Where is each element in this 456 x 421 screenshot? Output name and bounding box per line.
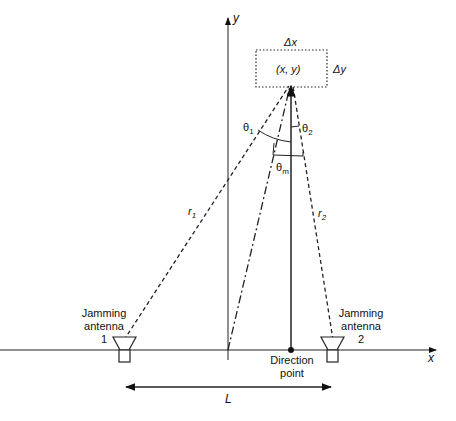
antenna1-label: Jamming antenna 1 (70, 307, 138, 346)
thetam-arc (273, 143, 303, 156)
theta1-arc (258, 130, 291, 142)
thetam-label: θm (276, 161, 289, 178)
delta-x-label: Δx (284, 36, 297, 49)
antenna2-label: Jamming antenna 2 (330, 307, 392, 346)
r1-label: r1 (188, 205, 196, 222)
theta2-label: θ2 (302, 122, 313, 139)
baseline-L-label: L (225, 393, 232, 406)
r2-label: r2 (318, 207, 326, 224)
r2-line (293, 86, 333, 340)
theta2-arc (291, 126, 299, 127)
target-position-label: (x, y) (276, 63, 300, 76)
y-axis-label: y (233, 12, 239, 25)
diagram-canvas (0, 0, 456, 421)
x-axis-label: x (428, 352, 434, 365)
direction-point-dot (288, 347, 294, 353)
theta1-label: θ1 (243, 121, 254, 138)
delta-y-label: Δy (333, 63, 346, 76)
direction-point-label: Direction point (262, 354, 322, 380)
dash-dot-line (228, 86, 290, 350)
r1-line (124, 86, 289, 340)
